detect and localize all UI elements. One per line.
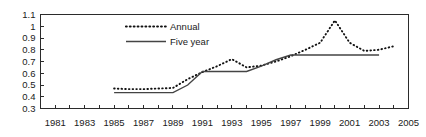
y-tick-label: 0.4 [22, 91, 35, 102]
x-tick-label: 1981 [45, 117, 66, 128]
x-tick-label: 2001 [339, 117, 360, 128]
x-tick-label: 1999 [310, 117, 331, 128]
y-tick-label: 0.9 [22, 32, 35, 43]
line-chart: 1.110.90.80.70.60.50.40.3 19811983198519… [0, 0, 426, 137]
x-tick-label: 1985 [104, 117, 125, 128]
x-tick-label: 1983 [74, 117, 95, 128]
x-tick-label: 1993 [221, 117, 242, 128]
x-tick-label: 2005 [398, 117, 419, 128]
y-tick-label: 0.6 [22, 68, 35, 79]
x-tick-label: 1997 [280, 117, 301, 128]
legend-label-annual: Annual [170, 21, 200, 32]
x-tick-label: 1989 [162, 117, 183, 128]
y-tick-label: 0.5 [22, 79, 35, 90]
y-tick-label: 0.3 [22, 103, 35, 114]
legend-label-five-year: Five year [170, 36, 209, 47]
y-tick-label: 1.1 [22, 9, 35, 20]
x-tick-label: 1995 [251, 117, 272, 128]
x-tick-label: 1987 [133, 117, 154, 128]
chart-container: 1.110.90.80.70.60.50.40.3 19811983198519… [0, 0, 426, 137]
y-tick-label: 0.7 [22, 56, 35, 67]
y-tick-label: 1 [30, 21, 35, 32]
y-tick-label: 0.8 [22, 44, 35, 55]
x-tick-label: 1991 [192, 117, 213, 128]
x-tick-label: 2003 [368, 117, 389, 128]
